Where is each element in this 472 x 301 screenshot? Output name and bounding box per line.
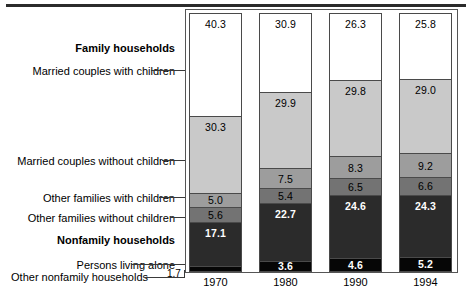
value-1994-married-with-children: 25.8 <box>400 19 451 30</box>
x-tick-1990: 1990 <box>329 276 382 288</box>
segment-1994-other-families-without-children[interactable]: 6.6 <box>400 177 451 195</box>
segment-1980-other-nonfamily-households[interactable]: 3.6 <box>260 261 311 271</box>
value-1970-other-families-with-children: 5.0 <box>190 195 241 206</box>
label-other-nonfamily-households: Other nonfamily households <box>11 271 148 283</box>
segment-1980-persons-living-alone[interactable]: 22.7 <box>260 203 311 261</box>
value-1980-married-without-children: 29.9 <box>260 98 311 109</box>
value-1990-married-with-children: 26.3 <box>330 19 381 30</box>
label-other-families-without-children: Other families without children <box>28 212 175 224</box>
value-1990-other-nonfamily-households: 4.6 <box>330 260 381 271</box>
segment-1990-married-without-children[interactable]: 29.8 <box>330 80 381 156</box>
value-1980-married-with-children: 30.9 <box>260 19 311 30</box>
label-married-couples-without-children: Married couples without children <box>17 155 175 167</box>
segment-1994-married-without-children[interactable]: 29.0 <box>400 79 451 153</box>
segment-1994-other-families-with-children[interactable]: 9.2 <box>400 153 451 177</box>
value-1994-persons-living-alone: 24.3 <box>400 201 451 212</box>
value-1980-other-families-with-children: 7.5 <box>260 173 311 184</box>
segment-1970-other-nonfamily-households[interactable] <box>190 266 241 271</box>
label-other-families-with-children: Other families with children <box>43 192 175 204</box>
segment-1990-married-with-children[interactable]: 26.3 <box>330 14 381 80</box>
segment-1980-other-families-without-children[interactable]: 5.4 <box>260 188 311 203</box>
segment-1980-married-with-children[interactable]: 30.9 <box>260 14 311 92</box>
value-1994-other-families-with-children: 9.2 <box>400 160 451 171</box>
value-1970-married-without-children: 30.3 <box>190 122 241 133</box>
segment-1994-other-nonfamily-households[interactable]: 5.2 <box>400 257 451 271</box>
value-1990-other-families-with-children: 8.3 <box>330 162 381 173</box>
segment-1990-persons-living-alone[interactable]: 24.6 <box>330 195 381 258</box>
value-1980-other-nonfamily-households: 3.6 <box>260 261 311 272</box>
value-1970-other-families-without-children: 5.6 <box>190 209 241 220</box>
value-1970-other-nonfamily-households: 1.7 <box>167 268 181 279</box>
segment-1970-persons-living-alone[interactable]: 17.1 <box>190 222 241 266</box>
segment-1990-other-nonfamily-households[interactable]: 4.6 <box>330 258 381 271</box>
segment-1990-other-families-with-children[interactable]: 8.3 <box>330 156 381 178</box>
x-tick-1994: 1994 <box>399 276 452 288</box>
stacked-bars: 40.3 30.3 5.0 5.6 17.1 30.9 29.9 7.5 5.4… <box>189 13 454 272</box>
x-axis-tick-labels: 1970 1980 1990 1994 <box>189 276 454 292</box>
segment-1970-married-without-children[interactable]: 30.3 <box>190 116 241 193</box>
value-1990-persons-living-alone: 24.6 <box>330 201 381 212</box>
value-1980-persons-living-alone: 22.7 <box>260 209 311 220</box>
value-1994-married-without-children: 29.0 <box>400 85 451 96</box>
segment-1994-married-with-children[interactable]: 25.8 <box>400 14 451 79</box>
chart-annotations: Family households Married couples with c… <box>0 0 185 301</box>
value-1994-other-families-without-children: 6.6 <box>400 181 451 192</box>
segment-1994-persons-living-alone[interactable]: 24.3 <box>400 195 451 257</box>
value-1970-persons-living-alone: 17.1 <box>190 228 241 239</box>
label-married-couples-with-children: Married couples with children <box>33 65 175 77</box>
value-1980-other-families-without-children: 5.4 <box>260 191 311 202</box>
bar-1970[interactable]: 40.3 30.3 5.0 5.6 17.1 <box>189 13 242 272</box>
value-1990-married-without-children: 29.8 <box>330 86 381 97</box>
value-1994-other-nonfamily-households: 5.2 <box>400 259 451 270</box>
chart-root: Family households Married couples with c… <box>0 0 472 301</box>
label-nonfamily-households: Nonfamily households <box>57 234 175 246</box>
segment-1990-other-families-without-children[interactable]: 6.5 <box>330 178 381 195</box>
segment-1980-other-families-with-children[interactable]: 7.5 <box>260 168 311 188</box>
x-tick-1980: 1980 <box>259 276 312 288</box>
segment-1970-married-with-children[interactable]: 40.3 <box>190 14 241 116</box>
segment-1970-other-families-with-children[interactable]: 5.0 <box>190 193 241 207</box>
bar-1994[interactable]: 25.8 29.0 9.2 6.6 24.3 5.2 <box>399 13 452 272</box>
value-1990-other-families-without-children: 6.5 <box>330 182 381 193</box>
segment-1970-other-families-without-children[interactable]: 5.6 <box>190 207 241 222</box>
x-tick-1970: 1970 <box>189 276 242 288</box>
label-persons-living-alone: Persons living alone <box>77 259 175 271</box>
segment-1980-married-without-children[interactable]: 29.9 <box>260 92 311 168</box>
bar-1990[interactable]: 26.3 29.8 8.3 6.5 24.6 4.6 <box>329 13 382 272</box>
label-family-households: Family households <box>75 42 175 54</box>
value-1970-married-with-children: 40.3 <box>190 19 241 30</box>
bar-1980[interactable]: 30.9 29.9 7.5 5.4 22.7 3.6 <box>259 13 312 272</box>
